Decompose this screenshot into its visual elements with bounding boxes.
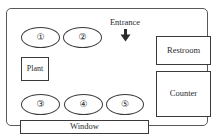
entrance-label: Entrance <box>102 18 148 27</box>
plant-fixture[interactable]: Plant <box>21 57 49 81</box>
table-5[interactable]: ⑤ <box>106 94 144 115</box>
table-4[interactable]: ④ <box>64 94 103 115</box>
counter-label: Counter <box>170 89 197 98</box>
table-1[interactable]: ① <box>21 27 60 48</box>
window-fixture[interactable]: Window <box>20 120 149 134</box>
table-3-label: ③ <box>36 100 44 109</box>
counter-fixture[interactable]: Counter <box>156 71 211 117</box>
table-4-label: ④ <box>79 100 87 109</box>
window-label: Window <box>70 122 99 131</box>
entrance-marker: Entrance <box>102 18 148 44</box>
restroom-label: Restroom <box>167 46 200 55</box>
plant-label: Plant <box>27 65 43 74</box>
restroom-fixture[interactable]: Restroom <box>156 36 211 65</box>
down-arrow-icon <box>119 29 132 42</box>
table-2-label: ② <box>78 33 86 42</box>
table-1-label: ① <box>36 33 44 42</box>
table-5-label: ⑤ <box>121 100 129 109</box>
table-2[interactable]: ② <box>63 27 102 48</box>
room-outline: ① ② Entrance Plant ③ ④ ⑤ Rest <box>6 8 208 126</box>
table-3[interactable]: ③ <box>21 94 60 115</box>
floor-plan-diagram: ① ② Entrance Plant ③ ④ ⑤ Rest <box>0 0 217 136</box>
